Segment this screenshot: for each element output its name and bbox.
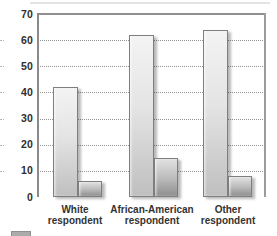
- bar-group2-series1: [228, 176, 252, 197]
- category-label-2-line1: respondent: [153, 215, 277, 226]
- y-axis-line: [37, 13, 39, 197]
- y-tick-label-40: 40: [3, 87, 33, 98]
- y-tick-label-50: 50: [3, 61, 33, 72]
- bar-chart: 010203040506070 WhiterespondentAfrican-A…: [0, 0, 277, 236]
- y-tick-label-0: 0: [3, 192, 33, 203]
- y-tick-label-60: 60: [3, 35, 33, 46]
- bar-group0-series1: [78, 181, 102, 197]
- y-tick-label-20: 20: [3, 139, 33, 150]
- legend-swatch-cutoff: [11, 231, 31, 236]
- plot-right-border: [264, 13, 266, 197]
- bar-group1-series0: [129, 35, 154, 197]
- category-label-2-line0: Other: [153, 204, 277, 215]
- y-tick-label-30: 30: [3, 113, 33, 124]
- plot-top-border: [38, 13, 266, 15]
- bar-group2-series0: [203, 30, 228, 197]
- bar-group0-series0: [53, 87, 78, 197]
- category-label-2: Otherrespondent: [153, 204, 277, 226]
- y-tick-label-10: 10: [3, 165, 33, 176]
- y-tick-label-70: 70: [3, 9, 33, 20]
- scan-artifact-line: [30, 2, 270, 4]
- bar-group1-series1: [154, 158, 178, 197]
